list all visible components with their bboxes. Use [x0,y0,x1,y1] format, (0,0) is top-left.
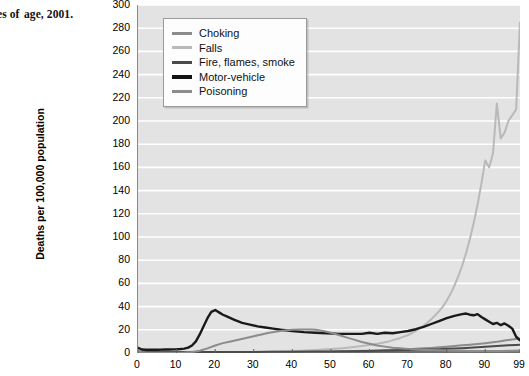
y-axis-ticks: 3002802602402202001801601401201008060402… [100,0,130,376]
y-axis-tick-label: 0 [100,346,130,358]
y-axis-tick-label: 40 [100,300,130,312]
legend-item-label: Motor-vehicle [199,71,265,83]
legend-item-label: Choking [199,27,239,39]
y-axis-tick-label: 80 [100,253,130,265]
legend-item-label: Falls [199,42,222,54]
plot-area: ChokingFallsFire, flames, smokeMotor-veh… [137,5,520,353]
y-axis-tick-label: 240 [100,68,130,80]
legend-item-label: Poisoning [199,85,247,97]
x-axis-tick-label: 50 [315,358,345,370]
x-axis-tick-label: 70 [392,358,422,370]
y-axis-tick-label: 180 [100,137,130,149]
y-axis-tick-label: 20 [100,323,130,335]
y-axis-title: Deaths per 100,000 population [34,84,46,284]
y-axis-tick-label: 220 [100,91,130,103]
legend-item[interactable]: Motor-vehicle [172,70,295,85]
y-axis-tick-label: 200 [100,114,130,126]
legend-item[interactable]: Falls [172,41,295,56]
legend-item[interactable]: Choking [172,26,295,41]
y-axis-tick-label: 260 [100,44,130,56]
x-axis-tick-label: 20 [199,358,229,370]
line-swatch-icon [172,46,192,49]
y-axis-tick-label: 140 [100,184,130,196]
x-axis-tick-label: 99 [504,358,529,370]
legend-item-label: Fire, flames, smoke [199,56,295,68]
line-swatch-icon [172,90,192,93]
x-axis-tick-label: 40 [276,358,306,370]
x-axis-tick-label: 30 [238,358,268,370]
y-axis-tick-label: 120 [100,207,130,219]
x-axis-tick-label: 80 [431,358,461,370]
x-axis-tick-label: 90 [469,358,499,370]
line-swatch-icon [172,61,192,64]
y-axis-tick-label: 300 [100,0,130,10]
y-axis-tick-label: 100 [100,230,130,242]
legend-item[interactable]: Fire, flames, smoke [172,55,295,70]
y-axis-tick-label: 160 [100,160,130,172]
x-axis-tick-label: 60 [354,358,384,370]
line-swatch-icon [172,32,192,35]
y-axis-tick-label: 60 [100,276,130,288]
line-swatch-icon [172,75,192,79]
y-axis-tick-label: 280 [100,21,130,33]
x-axis-tick-label: 0 [122,358,152,370]
legend-item[interactable]: Poisoning [172,84,295,99]
chart-legend: ChokingFallsFire, flames, smokeMotor-veh… [163,18,307,107]
x-axis-tick-label: 10 [161,358,191,370]
